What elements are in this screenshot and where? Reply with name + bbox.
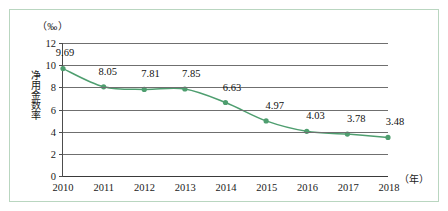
gridline-y-12 <box>63 43 388 44</box>
y-tick-mark-6 <box>59 110 63 111</box>
plot-area: 0246810122010201120122013201420152016201… <box>62 43 388 176</box>
gridline-y-0 <box>63 176 388 177</box>
data-label-2017: 3.78 <box>347 113 365 124</box>
gridline-y-2 <box>63 154 388 155</box>
data-label-2011: 8.05 <box>99 66 117 77</box>
x-tick-label-2010: 2010 <box>53 182 74 193</box>
data-label-2013: 7.85 <box>182 68 200 79</box>
y-tick-mark-8 <box>59 87 63 88</box>
y-tick-mark-12 <box>59 43 63 44</box>
x-tick-label-2014: 2014 <box>216 182 237 193</box>
x-tick-label-2011: 2011 <box>93 182 114 193</box>
data-label-2015: 4.97 <box>266 100 284 111</box>
y-tick-mark-10 <box>59 65 63 66</box>
y-tick-label-4: 4 <box>51 126 56 137</box>
x-tick-label-2016: 2016 <box>297 182 318 193</box>
data-label-2016: 4.03 <box>306 110 324 121</box>
x-tick-label-2018: 2018 <box>379 182 400 193</box>
y-axis-unit-label: （‰） <box>37 18 68 33</box>
x-tick-label-2015: 2015 <box>256 182 277 193</box>
series-line <box>63 69 388 138</box>
plot-area-wrapper: 0246810122010201120122013201420152016201… <box>62 43 388 176</box>
x-tick-label-2012: 2012 <box>134 182 155 193</box>
gridline-y-6 <box>63 110 388 111</box>
data-label-2012: 7.81 <box>141 68 159 79</box>
y-axis-title: 净用金数率 <box>26 70 40 120</box>
y-tick-mark-0 <box>59 176 63 177</box>
data-point-2014 <box>223 100 228 105</box>
data-point-2015 <box>264 118 269 123</box>
y-tick-mark-2 <box>59 154 63 155</box>
y-tick-label-6: 6 <box>51 104 56 115</box>
x-tick-label-2013: 2013 <box>175 182 196 193</box>
chart-figure: （‰） 净用金数率 024681012201020112012201320142… <box>0 0 448 211</box>
y-tick-mark-4 <box>59 132 63 133</box>
gridline-y-4 <box>63 132 388 133</box>
y-tick-label-12: 12 <box>46 38 57 49</box>
data-label-2018: 3.48 <box>386 116 404 127</box>
y-tick-label-2: 2 <box>51 148 56 159</box>
data-label-2010: 9.69 <box>56 47 74 58</box>
data-label-2014: 6.63 <box>223 82 241 93</box>
y-tick-label-0: 0 <box>51 171 56 182</box>
x-tick-label-2017: 2017 <box>338 182 359 193</box>
y-tick-label-8: 8 <box>51 82 56 93</box>
data-point-2010 <box>60 66 65 71</box>
x-axis-caption: （年） <box>399 171 429 186</box>
y-tick-label-10: 10 <box>46 60 57 71</box>
